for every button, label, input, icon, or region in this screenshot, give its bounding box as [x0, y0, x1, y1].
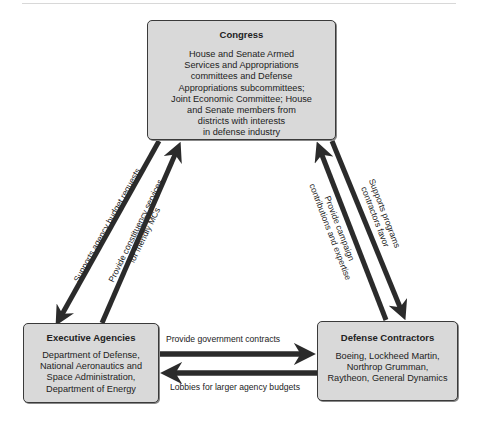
- executive-title: Executive Agencies: [24, 332, 158, 343]
- executive-description: Department of Defense, National Aeronaut…: [24, 350, 158, 395]
- congress-box: Congress House and Senate Armed Services…: [147, 20, 336, 140]
- executive-agencies-box: Executive Agencies Department of Defense…: [23, 323, 159, 403]
- congress-line: Services and Appropriations: [148, 60, 335, 71]
- congress-line: in defense industry: [148, 127, 335, 138]
- executive-line: National Aeronautics and: [24, 361, 158, 372]
- congress-line: Appropriations subcommittees;: [148, 83, 335, 94]
- defense-description: Boeing, Lockheed Martin, Northrop Grumma…: [318, 351, 457, 385]
- congress-title: Congress: [148, 29, 335, 40]
- defense-line: Northrop Grumman,: [318, 362, 457, 373]
- executive-line: Department of Energy: [24, 384, 158, 395]
- congress-line: and Senate members from: [148, 105, 335, 116]
- executive-line: Space Administration,: [24, 372, 158, 383]
- congress-line: Joint Economic Committee; House: [148, 94, 335, 105]
- defense-title: Defense Contractors: [318, 332, 457, 343]
- label-provide-contracts: Provide government contracts: [166, 334, 280, 344]
- executive-line: Department of Defense,: [24, 350, 158, 361]
- defense-line: Raytheon, General Dynamics: [318, 373, 457, 384]
- defense-contractors-box: Defense Contractors Boeing, Lockheed Mar…: [317, 321, 458, 401]
- congress-line: committees and Defense: [148, 71, 335, 82]
- congress-line: House and Senate Armed: [148, 49, 335, 60]
- congress-line: districts with interests: [148, 116, 335, 127]
- label-lobbies-budgets: Lobbies for larger agency budgets: [170, 382, 300, 392]
- congress-description: House and Senate Armed Services and Appr…: [148, 49, 335, 139]
- defense-line: Boeing, Lockheed Martin,: [318, 351, 457, 362]
